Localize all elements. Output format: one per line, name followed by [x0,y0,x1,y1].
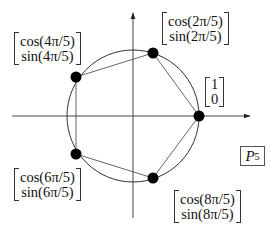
figure-label-letter: P [245,148,254,165]
label-bottom: sin(2π/5) [168,29,223,44]
right-bracket [76,32,81,65]
label-top: cos(2π/5) [168,14,223,29]
label-vertex-6pi5: cos(6π/5) sin(6π/5) [14,168,81,201]
vertex-point-4pi5 [71,72,82,83]
label-bottom: sin(8π/5) [180,207,235,222]
vertex-point-2pi5 [148,48,159,59]
vertex-point-6pi5 [71,149,82,160]
vertex-point-8pi5 [148,173,159,184]
label-top: 1 [211,77,218,92]
label-vertex-0: 1 0 [205,77,224,107]
label-vertex-8pi5: cos(8π/5) sin(8π/5) [174,190,241,223]
figure-label-subscript: 5 [255,151,260,162]
figure-label-box: P5 [240,146,265,166]
label-vertex-2pi5: cos(2π/5) sin(2π/5) [162,12,229,45]
right-bracket [219,77,224,107]
label-top: cos(8π/5) [180,192,235,207]
label-bottom: sin(6π/5) [20,185,75,200]
label-bottom: 0 [211,92,218,107]
right-bracket [76,168,81,201]
label-top: cos(6π/5) [20,170,75,185]
right-bracket [224,12,229,45]
label-vertex-4pi5: cos(4π/5) sin(4π/5) [14,32,81,65]
right-bracket [236,190,241,223]
vertex-point-0 [194,111,205,122]
label-bottom: sin(4π/5) [20,49,75,64]
label-top: cos(4π/5) [20,34,75,49]
